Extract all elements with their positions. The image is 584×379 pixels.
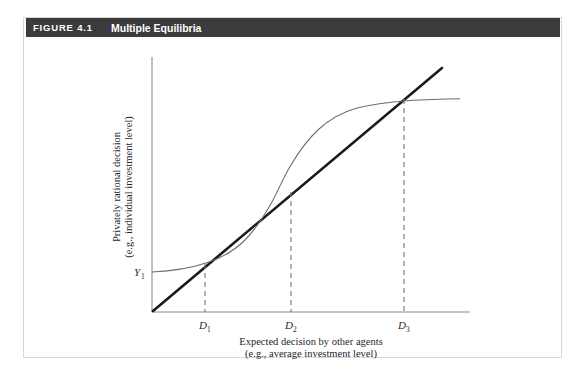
x-axis-caption: Expected decision by other agents (e.g.,… xyxy=(239,336,382,360)
figure-root: FIGURE 4.1 Multiple Equilibria Y 1 xyxy=(0,0,584,379)
d2-label-letter: D xyxy=(284,319,293,331)
forty-five-degree-line xyxy=(153,68,442,311)
best-response-curve xyxy=(152,99,460,272)
y1-tick-label: Y 1 xyxy=(134,266,145,281)
x-axis-caption-line1: Expected decision by other agents xyxy=(239,336,382,347)
multiple-equilibria-chart: Y 1 D 1 D 2 D 3 Expected decision by oth… xyxy=(23,37,562,358)
y-axis-caption-line2: (e.g., individual investment level) xyxy=(123,116,135,258)
d1-tick-label: D 1 xyxy=(198,319,211,334)
d3-tick-label: D 3 xyxy=(397,319,410,334)
plot-area: Y 1 D 1 D 2 D 3 Expected decision by oth… xyxy=(23,37,562,358)
d2-tick-label: D 2 xyxy=(284,319,297,334)
d1-label-letter: D xyxy=(198,319,207,331)
y-axis-caption-line1: Privately rational decision xyxy=(111,131,122,242)
figure-header-bar: FIGURE 4.1 Multiple Equilibria xyxy=(26,18,560,37)
x-axis-caption-line2: (e.g., average investment level) xyxy=(245,348,377,360)
y1-label-subscript: 1 xyxy=(141,272,145,281)
d2-label-subscript: 2 xyxy=(293,325,297,334)
d3-label-letter: D xyxy=(397,319,406,331)
figure-number-label: FIGURE 4.1 xyxy=(33,22,111,33)
d3-label-subscript: 3 xyxy=(406,325,410,334)
d1-label-subscript: 1 xyxy=(207,325,211,334)
y-axis-caption: Privately rational decision (e.g., indiv… xyxy=(111,116,135,258)
figure-title: Multiple Equilibria xyxy=(111,22,201,34)
